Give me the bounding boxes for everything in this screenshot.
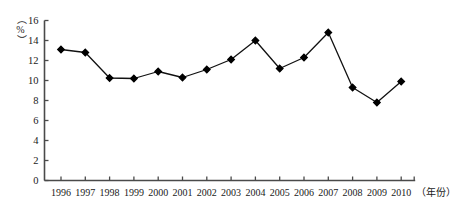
chart-plot-area xyxy=(0,0,455,214)
y-tick-label: 14 xyxy=(19,36,39,46)
x-tick-label: 1998 xyxy=(100,187,120,198)
y-tick-label: 16 xyxy=(19,16,39,26)
x-tick-label: 2007 xyxy=(318,187,338,198)
x-axis-unit-label: （年份） xyxy=(416,187,455,199)
y-tick-label: 8 xyxy=(19,96,39,106)
x-tick-label: 2003 xyxy=(221,187,241,198)
y-tick-label: 12 xyxy=(19,56,39,66)
x-tick-label: 2006 xyxy=(294,187,314,198)
y-tick-label: 6 xyxy=(19,116,39,126)
x-tick-label: 2005 xyxy=(270,187,290,198)
x-tick-label: 2000 xyxy=(148,187,168,198)
x-tick-label: 1996 xyxy=(51,187,71,198)
y-tick-label: 10 xyxy=(19,76,39,86)
x-tick-label: 2002 xyxy=(197,187,217,198)
line-chart: （%） 0246810121416 1996199719981999200020… xyxy=(0,0,455,214)
x-tick-label: 1997 xyxy=(75,187,95,198)
y-tick-label: 2 xyxy=(19,156,39,166)
y-tick-label: 4 xyxy=(19,136,39,146)
x-tick-label: 1999 xyxy=(124,187,144,198)
x-tick-label: 2010 xyxy=(391,187,411,198)
x-tick-label: 2004 xyxy=(245,187,265,198)
x-tick-label: 2008 xyxy=(343,187,363,198)
x-tick-label: 2001 xyxy=(173,187,193,198)
x-tick-label: 2009 xyxy=(367,187,387,198)
y-tick-label: 0 xyxy=(19,176,39,186)
